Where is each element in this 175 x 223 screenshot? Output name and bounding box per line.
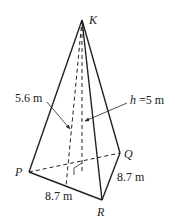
height-value: =5 m — [136, 93, 165, 107]
vertex-label-p: P — [14, 165, 23, 179]
visible-edges — [29, 20, 120, 200]
vertex-label-q: Q — [124, 147, 133, 161]
right-angle-mark — [74, 163, 82, 175]
slant-height-arrow — [47, 102, 70, 129]
edge-kr — [82, 20, 102, 200]
pyramid-diagram: K P Q R 5.6 m h =5 m 8.7 m 8.7 m — [0, 0, 175, 223]
base-diagonal-pq — [29, 153, 120, 172]
slant-height-label: 5.6 m — [15, 91, 43, 105]
base-edge-pr-label: 8.7 m — [45, 189, 73, 203]
vertex-label-r: R — [96, 205, 105, 219]
edge-kq — [82, 20, 120, 153]
vertex-label-k: K — [88, 13, 98, 27]
base-edge-qr-label: 8.7 m — [117, 170, 145, 184]
height-label: h =5 m — [130, 93, 165, 107]
